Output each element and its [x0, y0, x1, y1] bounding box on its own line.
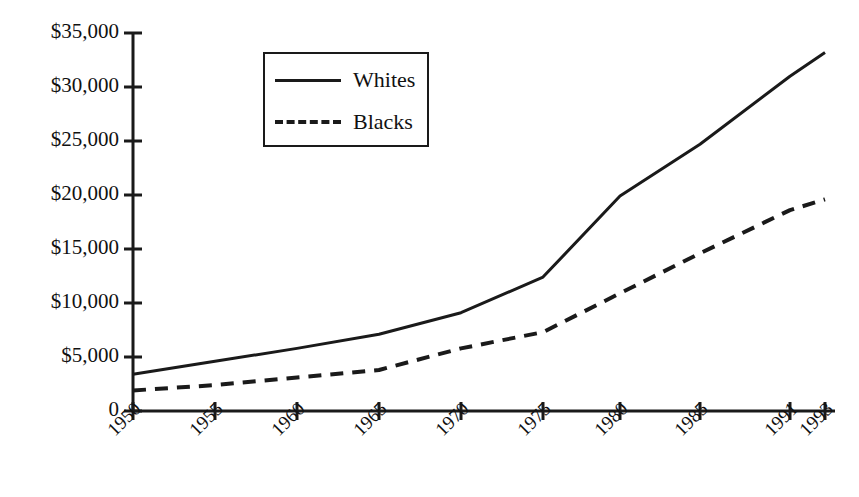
- legend-line-solid-icon: [275, 79, 341, 82]
- y-axis-label: $30,000: [51, 73, 119, 98]
- legend-item-whites: Whites: [265, 59, 427, 101]
- y-axis-label: $5,000: [61, 343, 119, 368]
- legend-item-blacks: Blacks: [265, 101, 427, 143]
- y-axis-label: $25,000: [51, 127, 119, 152]
- legend-label-whites: Whites: [353, 69, 415, 91]
- axes: [124, 33, 835, 420]
- y-axis-label: $20,000: [51, 181, 119, 206]
- legend-line-dashed-icon: [275, 120, 341, 124]
- y-axis-label: $15,000: [51, 235, 119, 260]
- series-line-blacks: [133, 199, 825, 390]
- chart-legend: Whites Blacks: [263, 52, 429, 147]
- data-series: [133, 52, 825, 390]
- line-chart: $35,000$30,000$25,000$20,000$15,000$10,0…: [0, 0, 859, 497]
- y-axis-label: $35,000: [51, 19, 119, 44]
- y-axis-label: $10,000: [51, 289, 119, 314]
- legend-label-blacks: Blacks: [353, 111, 413, 133]
- series-line-whites: [133, 52, 825, 374]
